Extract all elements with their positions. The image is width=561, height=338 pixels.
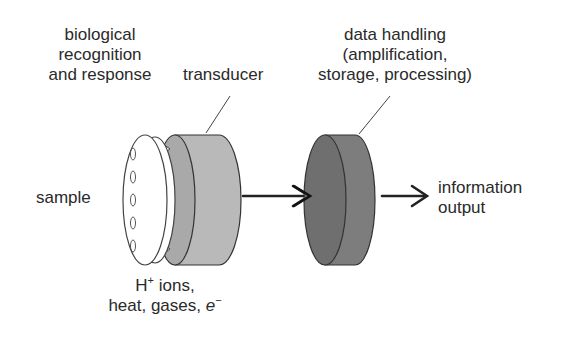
- sample-disc: [123, 135, 167, 265]
- transducer-label: transducer: [183, 65, 263, 85]
- label-line: information: [438, 178, 522, 198]
- h-symbol: H: [135, 276, 147, 295]
- information-output-label: information output: [438, 178, 522, 218]
- biological-recognition-label: biological recognition and response: [30, 25, 170, 85]
- ions-line: H+ ions,: [85, 276, 245, 296]
- ions-text: ions,: [154, 276, 195, 295]
- minus-superscript: −: [215, 294, 221, 306]
- label-line: and response: [30, 65, 170, 85]
- label-line: data handling: [300, 25, 490, 45]
- label-line: (amplification,: [300, 45, 490, 65]
- signal-types-label: H+ ions, heat, gases, e−: [85, 276, 245, 316]
- data-handling-cylinder: [304, 135, 375, 265]
- label-line: recognition: [30, 45, 170, 65]
- heat-gases-text: heat, gases,: [108, 296, 205, 315]
- data-handling-label: data handling (amplification, storage, p…: [300, 25, 490, 85]
- label-line: output: [438, 198, 522, 218]
- electron-symbol: e: [206, 296, 215, 315]
- transducer-leader-line: [206, 96, 230, 133]
- arrow-to-output: [382, 186, 427, 206]
- label-line: storage, processing): [300, 65, 490, 85]
- sample-label: sample: [36, 188, 91, 208]
- heat-gases-line: heat, gases, e−: [85, 296, 245, 316]
- data-handling-leader-line: [359, 96, 390, 134]
- label-line: biological: [30, 25, 170, 45]
